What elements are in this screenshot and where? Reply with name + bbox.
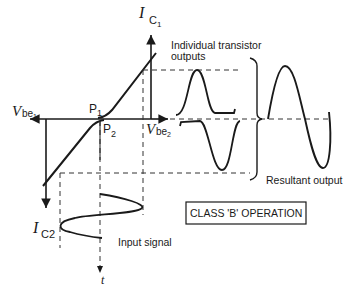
input-signal-label: Input signal — [118, 236, 172, 248]
individual-outputs-label-line2: outputs — [171, 50, 205, 62]
ic1-subsubscript: 1 — [157, 20, 162, 29]
time-axis-label: t — [101, 273, 105, 287]
class-b-diagram: I C 1 I C2 V be 1 V be 2 P 1 P 2 t Indiv… — [0, 0, 361, 287]
lower-transistor-output — [180, 121, 240, 170]
vbe2-subsubscript: 2 — [167, 131, 171, 138]
p2-label: P — [103, 122, 111, 136]
ic2-label: I — [32, 219, 39, 236]
input-signal-wave — [60, 194, 142, 238]
vbe2-subscript: be — [156, 126, 168, 137]
time-axis-arrowhead — [97, 266, 103, 273]
resultant-output-wave — [268, 66, 330, 168]
vbe1-subsubscript: 1 — [33, 113, 37, 120]
transfer-curve-upper — [98, 53, 156, 118]
ic1-subscript: C — [149, 14, 157, 26]
upper-transistor-output — [176, 70, 235, 115]
class-b-label: CLASS 'B' OPERATION — [190, 207, 302, 219]
p1-label: P — [89, 102, 97, 116]
resultant-output-label: Resultant output — [266, 174, 343, 186]
vbe1-subscript: be — [22, 108, 34, 119]
transfer-curve-lower — [43, 120, 104, 186]
p1-subscript: 1 — [97, 108, 102, 118]
ic1-label: I — [138, 4, 145, 21]
p2-subscript: 2 — [111, 129, 116, 139]
ic2-subscript: C2 — [41, 228, 55, 240]
